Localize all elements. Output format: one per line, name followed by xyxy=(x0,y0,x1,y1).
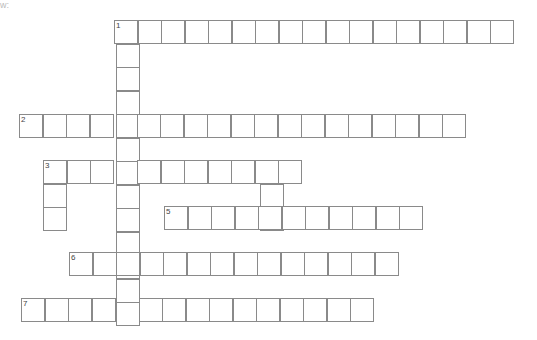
crossword-cell[interactable] xyxy=(257,252,281,276)
crossword-cell[interactable] xyxy=(255,160,279,184)
crossword-cell[interactable] xyxy=(93,252,117,276)
crossword-cell[interactable]: 1 xyxy=(114,20,138,44)
crossword-cell[interactable] xyxy=(256,298,280,322)
crossword-cell[interactable] xyxy=(184,160,208,184)
crossword-cell[interactable] xyxy=(92,298,116,322)
crossword-cell[interactable]: 7 xyxy=(21,298,45,322)
header-fragment: w: xyxy=(0,0,9,10)
crossword-cell[interactable] xyxy=(301,114,325,138)
crossword-cell[interactable] xyxy=(233,298,257,322)
crossword-cell[interactable] xyxy=(302,20,326,44)
crossword-cell[interactable] xyxy=(163,252,187,276)
crossword-cell[interactable] xyxy=(376,206,400,230)
crossword-cell[interactable] xyxy=(258,206,282,230)
crossword-cell[interactable] xyxy=(352,206,376,230)
crossword-cell[interactable] xyxy=(231,114,255,138)
crossword-cell[interactable] xyxy=(43,114,67,138)
crossword-cell[interactable] xyxy=(348,114,372,138)
crossword-cell[interactable]: 3 xyxy=(43,160,67,184)
crossword-cell[interactable] xyxy=(372,114,396,138)
crossword-cell[interactable]: 2 xyxy=(19,114,43,138)
crossword-cell[interactable] xyxy=(116,67,140,91)
clue-number: 2 xyxy=(21,115,25,124)
crossword-cell[interactable] xyxy=(116,44,140,68)
crossword-cell[interactable] xyxy=(395,114,419,138)
crossword-cell[interactable] xyxy=(399,206,423,230)
crossword-cell[interactable] xyxy=(282,206,306,230)
crossword-cell[interactable] xyxy=(328,252,352,276)
crossword-cell[interactable] xyxy=(186,298,210,322)
crossword-cell[interactable] xyxy=(207,114,231,138)
crossword-cell[interactable]: 6 xyxy=(69,252,93,276)
crossword-cell[interactable] xyxy=(305,206,329,230)
crossword-cell[interactable] xyxy=(467,20,491,44)
crossword-cell[interactable] xyxy=(210,252,234,276)
crossword-cell[interactable] xyxy=(234,252,258,276)
clue-number: 1 xyxy=(116,21,120,30)
crossword-cell[interactable] xyxy=(303,298,327,322)
crossword-cell[interactable] xyxy=(116,91,140,115)
crossword-cell[interactable] xyxy=(162,298,186,322)
crossword-cell[interactable] xyxy=(490,20,514,44)
crossword-cell[interactable] xyxy=(137,160,161,184)
crossword-cell[interactable] xyxy=(231,160,255,184)
crossword-cell[interactable] xyxy=(260,184,284,208)
crossword-cell[interactable] xyxy=(279,20,303,44)
crossword-cell[interactable] xyxy=(235,206,259,230)
crossword-cell[interactable] xyxy=(116,138,140,162)
crossword-cell[interactable] xyxy=(209,298,233,322)
crossword-cell[interactable] xyxy=(116,302,140,326)
crossword-cell[interactable] xyxy=(443,20,467,44)
crossword-cell[interactable] xyxy=(185,20,209,44)
crossword-cell[interactable] xyxy=(45,298,69,322)
crossword-cell[interactable] xyxy=(137,114,161,138)
clue-number: 3 xyxy=(45,161,49,170)
crossword-cell[interactable] xyxy=(161,160,185,184)
crossword-cell[interactable] xyxy=(327,298,351,322)
crossword-cell[interactable] xyxy=(67,160,91,184)
crossword-cell[interactable] xyxy=(420,20,444,44)
crossword-cell[interactable] xyxy=(329,206,353,230)
crossword-cell[interactable] xyxy=(188,206,212,230)
crossword-cell[interactable] xyxy=(43,184,67,208)
crossword-cell[interactable] xyxy=(208,160,232,184)
crossword-cell[interactable] xyxy=(116,208,140,232)
crossword-cell[interactable] xyxy=(116,185,140,209)
clue-number: 6 xyxy=(71,253,75,262)
crossword-cell[interactable] xyxy=(278,114,302,138)
crossword-cell[interactable] xyxy=(281,252,305,276)
crossword-cell[interactable] xyxy=(140,252,164,276)
crossword-cell[interactable]: 5 xyxy=(164,206,188,230)
crossword-cell[interactable] xyxy=(66,114,90,138)
crossword-cell[interactable] xyxy=(43,207,67,231)
crossword-cell[interactable] xyxy=(116,279,140,303)
crossword-cell[interactable] xyxy=(90,160,114,184)
crossword-cell[interactable] xyxy=(396,20,420,44)
crossword-cell[interactable] xyxy=(138,20,162,44)
crossword-cell[interactable] xyxy=(280,298,304,322)
crossword-cell[interactable] xyxy=(350,298,374,322)
crossword-cell[interactable] xyxy=(255,20,279,44)
crossword-cell[interactable] xyxy=(254,114,278,138)
crossword-cell[interactable] xyxy=(160,114,184,138)
crossword-cell[interactable] xyxy=(419,114,443,138)
crossword-cell[interactable] xyxy=(373,20,397,44)
crossword-cell[interactable] xyxy=(232,20,256,44)
crossword-cell[interactable] xyxy=(68,298,92,322)
crossword-cell[interactable] xyxy=(304,252,328,276)
crossword-cell[interactable] xyxy=(351,252,375,276)
crossword-cell[interactable] xyxy=(278,160,302,184)
crossword-cell[interactable] xyxy=(161,20,185,44)
crossword-cell[interactable] xyxy=(139,298,163,322)
crossword-cell[interactable] xyxy=(187,252,211,276)
crossword-cell[interactable] xyxy=(211,206,235,230)
crossword-cell[interactable] xyxy=(208,20,232,44)
crossword-cell[interactable] xyxy=(326,20,350,44)
crossword-cell[interactable] xyxy=(116,252,140,276)
crossword-cell[interactable] xyxy=(442,114,466,138)
crossword-cell[interactable] xyxy=(375,252,399,276)
crossword-cell[interactable] xyxy=(90,114,114,138)
crossword-cell[interactable] xyxy=(349,20,373,44)
crossword-cell[interactable] xyxy=(184,114,208,138)
crossword-cell[interactable] xyxy=(325,114,349,138)
